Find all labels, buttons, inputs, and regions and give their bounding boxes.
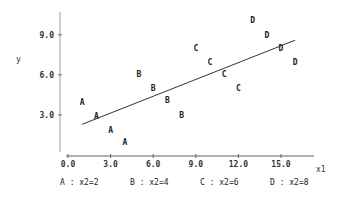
regression-line: [82, 40, 295, 124]
scatter-chart: 3.06.09.0 0.03.06.09.012.015.0 y x1 AAAA…: [0, 0, 338, 197]
x-axis-label: x1: [316, 165, 326, 174]
data-point-c: C: [208, 58, 213, 67]
data-point-a: A: [108, 126, 113, 135]
x-tick-label: 12.0: [229, 160, 248, 169]
x-tick-label: 6.0: [146, 160, 161, 169]
x-tick-label: 15.0: [271, 160, 290, 169]
data-point-a: A: [80, 98, 85, 107]
data-point-b: B: [137, 70, 142, 79]
y-ticks: 3.06.09.0: [40, 31, 62, 120]
x-tick-label: 0.0: [61, 160, 76, 169]
x-tick-label: 9.0: [189, 160, 204, 169]
legend: A : x2=2 B : x2=4 C : x2=6 D : x2=8: [60, 178, 338, 187]
data-markers: AAAABBBBCCCCDDDD: [80, 16, 298, 146]
data-point-a: A: [94, 112, 99, 121]
data-point-d: D: [250, 16, 255, 25]
data-point-c: C: [236, 84, 241, 93]
legend-item-d: D : x2=8: [270, 178, 338, 187]
legend-item-c: C : x2=6: [200, 178, 270, 187]
y-tick-label: 9.0: [40, 31, 55, 40]
data-point-b: B: [151, 84, 156, 93]
data-point-c: C: [193, 44, 198, 53]
data-point-b: B: [165, 96, 170, 105]
x-tick-label: 3.0: [103, 160, 118, 169]
data-point-d: D: [264, 31, 269, 40]
y-tick-label: 3.0: [40, 111, 55, 120]
data-point-b: B: [179, 111, 184, 120]
legend-item-a: A : x2=2: [60, 178, 130, 187]
y-tick-label: 6.0: [40, 71, 55, 80]
data-point-c: C: [222, 70, 227, 79]
legend-item-b: B : x2=4: [130, 178, 200, 187]
data-point-a: A: [122, 138, 127, 147]
y-axis-label: y: [16, 55, 21, 64]
data-point-d: D: [293, 58, 298, 67]
data-point-d: D: [279, 44, 284, 53]
